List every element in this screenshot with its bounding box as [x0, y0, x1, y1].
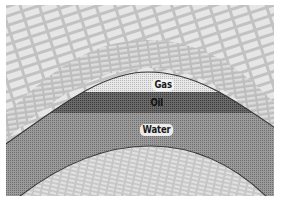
diagram-canvas [0, 0, 281, 200]
anticline-diagram: Gas Oil Water [0, 0, 281, 200]
water-label: Water [140, 124, 173, 136]
oil-label: Oil [148, 97, 166, 109]
gas-label: Gas [152, 79, 174, 91]
